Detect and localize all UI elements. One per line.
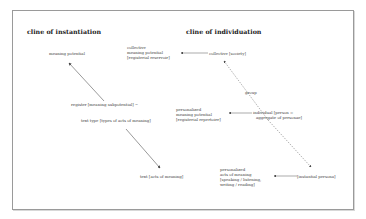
- node-collective-meaning-potential: collective meaning potential [registeria…: [127, 45, 170, 60]
- node-group: group: [245, 90, 257, 95]
- node-meaning-potential: meaning potential: [49, 51, 85, 56]
- node-register: register [meaning subpotential] ~: [71, 102, 138, 107]
- node-text: text [acts of meaning]: [140, 174, 183, 179]
- node-collective-society: collective [society]: [209, 51, 246, 56]
- node-personalized-meaning-potential: personalized meaning potential [register…: [176, 107, 221, 122]
- node-text-type: text type [types of acts of meaning]: [81, 118, 151, 123]
- arrow-texttype-to-text: [126, 129, 160, 168]
- arrow-register-to-meaning-potential: [69, 63, 104, 101]
- node-personalized-acts: personalized acts of meaning [speaking /…: [220, 167, 261, 187]
- heading-cline-of-individuation: cline of individuation: [186, 28, 261, 35]
- node-instantial-persona: [instantial persona]: [297, 174, 336, 179]
- node-individual: individual [person = aggregate of person…: [253, 110, 302, 120]
- heading-cline-of-instantiation: cline of instantiation: [27, 28, 101, 35]
